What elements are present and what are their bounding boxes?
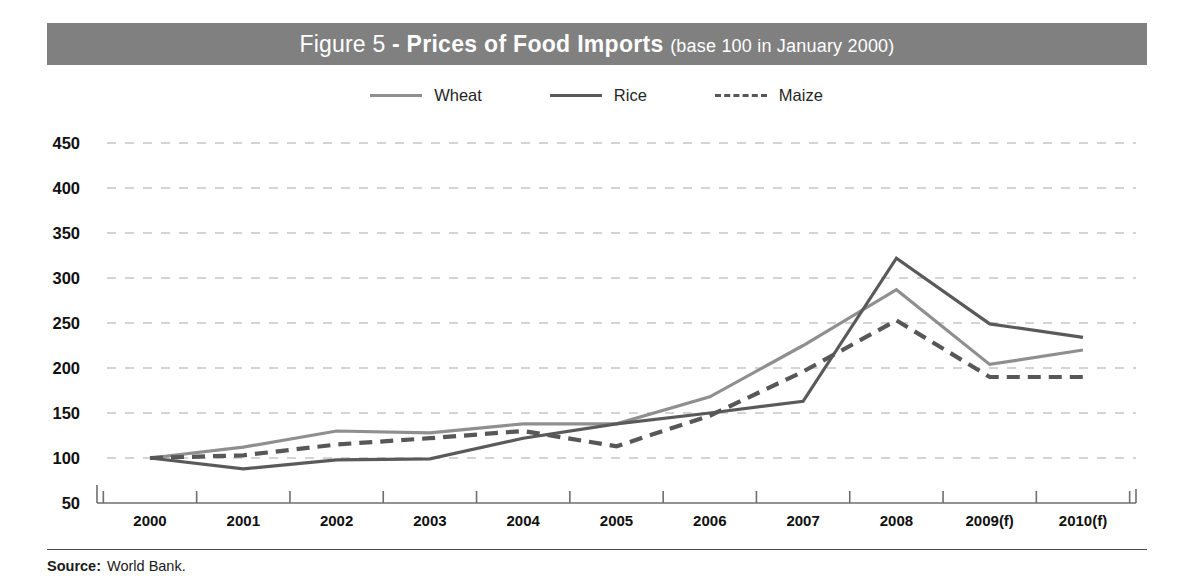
chart-plot-area: 45040035030025020015010050	[0, 112, 1193, 532]
source-label: Source:	[47, 558, 101, 574]
legend-swatch-rice-icon	[550, 88, 602, 102]
figure-title-main: Prices of Food Imports	[407, 31, 664, 57]
x-axis-tick-label: 2001	[227, 512, 260, 529]
chart-svg	[0, 112, 1193, 532]
x-axis-tick-label: 2009(f)	[966, 512, 1014, 529]
x-axis-tick-label: 2004	[507, 512, 540, 529]
x-axis-tick-label: 2006	[693, 512, 726, 529]
source-divider	[47, 549, 1147, 550]
x-axis-tick-label: 2008	[880, 512, 913, 529]
legend-label-rice: Rice	[614, 86, 647, 105]
x-axis-tick-label: 2003	[413, 512, 446, 529]
x-axis-tick-label: 2002	[320, 512, 353, 529]
x-axis-tick-label: 2005	[600, 512, 633, 529]
x-axis-tick-label: 2007	[786, 512, 819, 529]
legend-item-rice: Rice	[550, 86, 647, 105]
series-line-wheat	[150, 290, 1083, 458]
legend-item-maize: Maize	[715, 86, 823, 105]
legend-label-maize: Maize	[779, 86, 823, 105]
chart-legend: Wheat Rice Maize	[0, 82, 1193, 108]
chart-axis-lines	[97, 485, 1136, 503]
figure-number: Figure 5	[299, 31, 385, 57]
figure-title-separator: -	[385, 31, 406, 57]
figure-title-text: Figure 5 - Prices of Food Imports (base …	[299, 33, 894, 56]
figure-title-bar: Figure 5 - Prices of Food Imports (base …	[47, 23, 1147, 65]
chart-gridlines	[107, 143, 1136, 458]
source-value: World Bank.	[107, 558, 186, 574]
x-axis-tick-label: 2000	[133, 512, 166, 529]
legend-item-wheat: Wheat	[370, 86, 482, 105]
x-axis-tick-labels: 2000200120022003200420052006200720082009…	[0, 512, 1193, 536]
source-note: Source:World Bank.	[47, 558, 186, 574]
chart-series-lines	[150, 258, 1083, 469]
legend-label-wheat: Wheat	[434, 86, 482, 105]
x-axis-tick-label: 2010(f)	[1059, 512, 1107, 529]
figure-subtitle: (base 100 in January 2000)	[670, 36, 894, 56]
series-line-rice	[150, 258, 1083, 469]
legend-swatch-maize-icon	[715, 88, 767, 102]
legend-swatch-wheat-icon	[370, 88, 422, 102]
series-line-maize	[150, 320, 1083, 458]
